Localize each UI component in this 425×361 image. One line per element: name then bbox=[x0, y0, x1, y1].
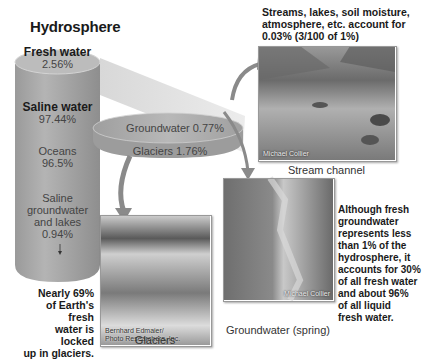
stream-photo-credit: Michael Collier bbox=[263, 150, 309, 158]
arrow-to-glaciers bbox=[121, 156, 130, 212]
streams-note-line1: Streams, lakes, soil moisture, bbox=[262, 6, 422, 18]
gw-note-line9: of all liquid bbox=[338, 300, 425, 312]
gw-note-line10: fresh water. bbox=[338, 312, 425, 324]
gw-note-line2: groundwater bbox=[338, 216, 425, 228]
stream-channel-caption: Stream channel bbox=[258, 164, 395, 176]
groundwater-note: Although fresh groundwater represents le… bbox=[338, 204, 425, 324]
saline-gw-line3: and lakes bbox=[15, 216, 100, 228]
oceans-label: Oceans 96.5% bbox=[15, 145, 100, 169]
gw-note-line3: represents less bbox=[338, 228, 425, 240]
gw-note-line4: than 1% of the bbox=[338, 240, 425, 252]
gw-note-line1: Although fresh bbox=[338, 204, 425, 216]
streams-note: Streams, lakes, soil moisture, atmospher… bbox=[262, 6, 422, 42]
glacier-note: Nearly 69% of Earth's fresh water is loc… bbox=[20, 287, 94, 359]
groundwater-label: Groundwater 0.77% bbox=[120, 122, 230, 134]
oceans-value: 96.5% bbox=[15, 157, 100, 169]
glaciers-label: Glaciers 1.76% bbox=[120, 145, 220, 157]
oceans-title: Oceans bbox=[15, 145, 100, 157]
saline-groundwater-label: Saline groundwater and lakes 0.94% bbox=[15, 192, 100, 240]
groundwater-spring-photo: Michael Collier bbox=[223, 178, 335, 302]
saline-gw-line1: Saline bbox=[15, 192, 100, 204]
glacier-note-line3: water is locked bbox=[20, 323, 94, 347]
glacier-note-line4: up in glaciers. bbox=[20, 347, 94, 359]
spring-photo-credit: Michael Collier bbox=[284, 290, 330, 298]
saline-gw-value: 0.94% bbox=[15, 228, 100, 240]
fresh-water-label: Fresh water 2.56% bbox=[15, 46, 100, 70]
saline-water-value: 97.44% bbox=[15, 113, 100, 125]
cylinder-body bbox=[15, 62, 100, 282]
arrow-to-stream bbox=[232, 64, 260, 100]
glacier-note-line1: Nearly 69% bbox=[20, 287, 94, 299]
glaciers-photo: Bernhard Edmaier/ Photo Researchers, Inc… bbox=[100, 215, 212, 347]
fresh-water-title: Fresh water bbox=[15, 46, 100, 58]
streams-note-line2: atmosphere, etc. account for bbox=[262, 18, 422, 30]
gw-note-line6: accounts for 30% bbox=[338, 264, 425, 276]
saline-water-title: Saline water bbox=[15, 101, 100, 113]
streams-note-line3: 0.03% (3/100 of 1%) bbox=[262, 30, 422, 42]
glaciers-caption: Glaciers bbox=[100, 334, 210, 346]
page-title: Hydrosphere bbox=[30, 18, 120, 35]
gw-note-line5: hydrosphere, it bbox=[338, 252, 425, 264]
gw-note-line8: and about 96% bbox=[338, 288, 425, 300]
saline-gw-line2: groundwater bbox=[15, 204, 100, 216]
glacier-note-line2: of Earth's fresh bbox=[20, 299, 94, 323]
saline-water-label: Saline water 97.44% bbox=[15, 101, 100, 125]
gw-note-line7: of all fresh water bbox=[338, 276, 425, 288]
groundwater-spring-caption: Groundwater (spring) bbox=[218, 324, 338, 336]
fresh-water-value: 2.56% bbox=[15, 58, 100, 70]
stream-channel-photo: Michael Collier bbox=[258, 46, 397, 162]
